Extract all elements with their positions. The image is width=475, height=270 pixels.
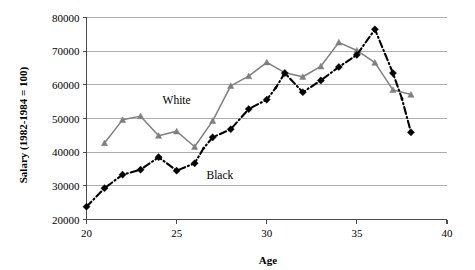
y-tick-label: 20000	[52, 214, 80, 226]
x-axis-title: Age	[259, 254, 277, 266]
x-tick-label: 30	[261, 227, 273, 239]
y-tick-label: 50000	[52, 113, 80, 125]
y-tick-label: 30000	[52, 180, 80, 192]
x-tick-label: 25	[171, 227, 183, 239]
x-tick-label: 20	[81, 227, 93, 239]
y-tick-label: 60000	[52, 79, 80, 91]
y-tick-label: 80000	[52, 12, 80, 24]
x-tick-label: 40	[442, 227, 454, 239]
y-tick-label: 40000	[52, 146, 80, 158]
series-annotation-black: Black	[206, 169, 233, 181]
series-annotation-white: White	[163, 94, 191, 106]
chart-background	[0, 0, 475, 270]
y-axis-title: Salary (1982-1984 = 100)	[17, 66, 30, 183]
x-tick-label: 35	[351, 227, 363, 239]
chart-canvas: 2025303540 20000300004000050000600007000…	[0, 0, 475, 270]
salary-by-age-chart: 2025303540 20000300004000050000600007000…	[0, 0, 475, 270]
y-tick-label: 70000	[52, 45, 80, 57]
